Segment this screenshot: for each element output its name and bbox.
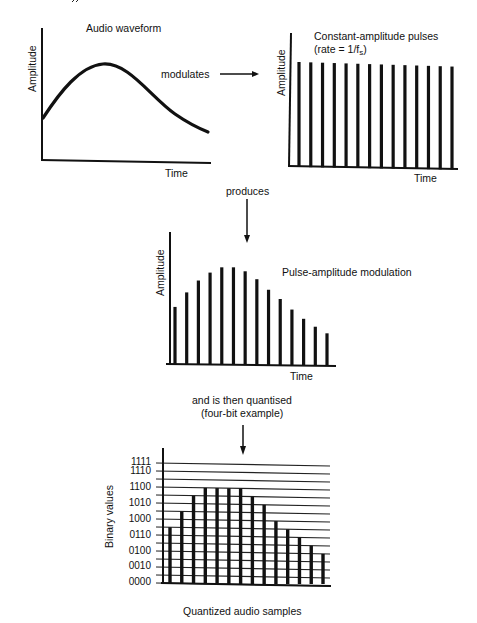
gridline <box>156 479 330 482</box>
ytick-1000: 1000 <box>111 514 151 524</box>
modulates-label: modulates <box>161 69 209 80</box>
panel2-subtitle: (rate = 1/fs) <box>314 44 367 57</box>
panel4-axes <box>161 448 331 586</box>
gridline <box>156 471 330 474</box>
ytick-0110: 0110 <box>111 530 151 540</box>
panel3-pulses <box>175 267 327 365</box>
arrow-down-icon <box>244 199 250 243</box>
ytick-0000: 0000 <box>111 577 151 587</box>
diagram-canvas <box>0 0 477 623</box>
gridline <box>156 463 330 466</box>
panel2-title: Constant-amplitude pulses <box>314 31 438 42</box>
panel1-ylabel: Amplitude <box>27 45 38 92</box>
panel3-axes <box>166 232 336 366</box>
panel1-title: Audio waveform <box>86 23 161 34</box>
panel4-bars <box>170 488 323 584</box>
produces-label: produces <box>226 186 269 197</box>
gridline <box>156 487 330 490</box>
gridline <box>156 495 330 498</box>
quantised-label-line1: and is then quantised <box>192 395 292 406</box>
panel2-ylabel: Amplitude <box>276 49 287 96</box>
panel3-title: Pulse-amplitude modulation <box>282 267 412 278</box>
panel1-axes <box>41 28 211 163</box>
ytick-1100: 1100 <box>111 482 151 492</box>
panel1-xlabel: Time <box>165 168 188 179</box>
gridline <box>156 503 330 506</box>
cropped-text-fragment <box>72 0 78 2</box>
panel2-subtitle-prefix: (rate = 1/f <box>314 43 359 55</box>
ytick-0100: 0100 <box>111 546 151 556</box>
arrow-right-icon <box>220 71 259 77</box>
quantised-label-line2: (four-bit example) <box>201 408 283 419</box>
panel4-caption: Quantized audio samples <box>183 606 302 617</box>
arrow-down-icon <box>240 425 246 455</box>
panel3-ylabel: Amplitude <box>155 249 166 296</box>
ytick-1110: 1110 <box>111 466 151 476</box>
ytick-0010: 0010 <box>111 561 151 571</box>
panel3-xlabel: Time <box>290 371 313 382</box>
panel2-pulses <box>299 62 452 170</box>
ytick-1010: 1010 <box>111 498 151 508</box>
panel2-xlabel: Time <box>414 173 437 184</box>
panel2-subtitle-suffix: ) <box>363 43 367 55</box>
